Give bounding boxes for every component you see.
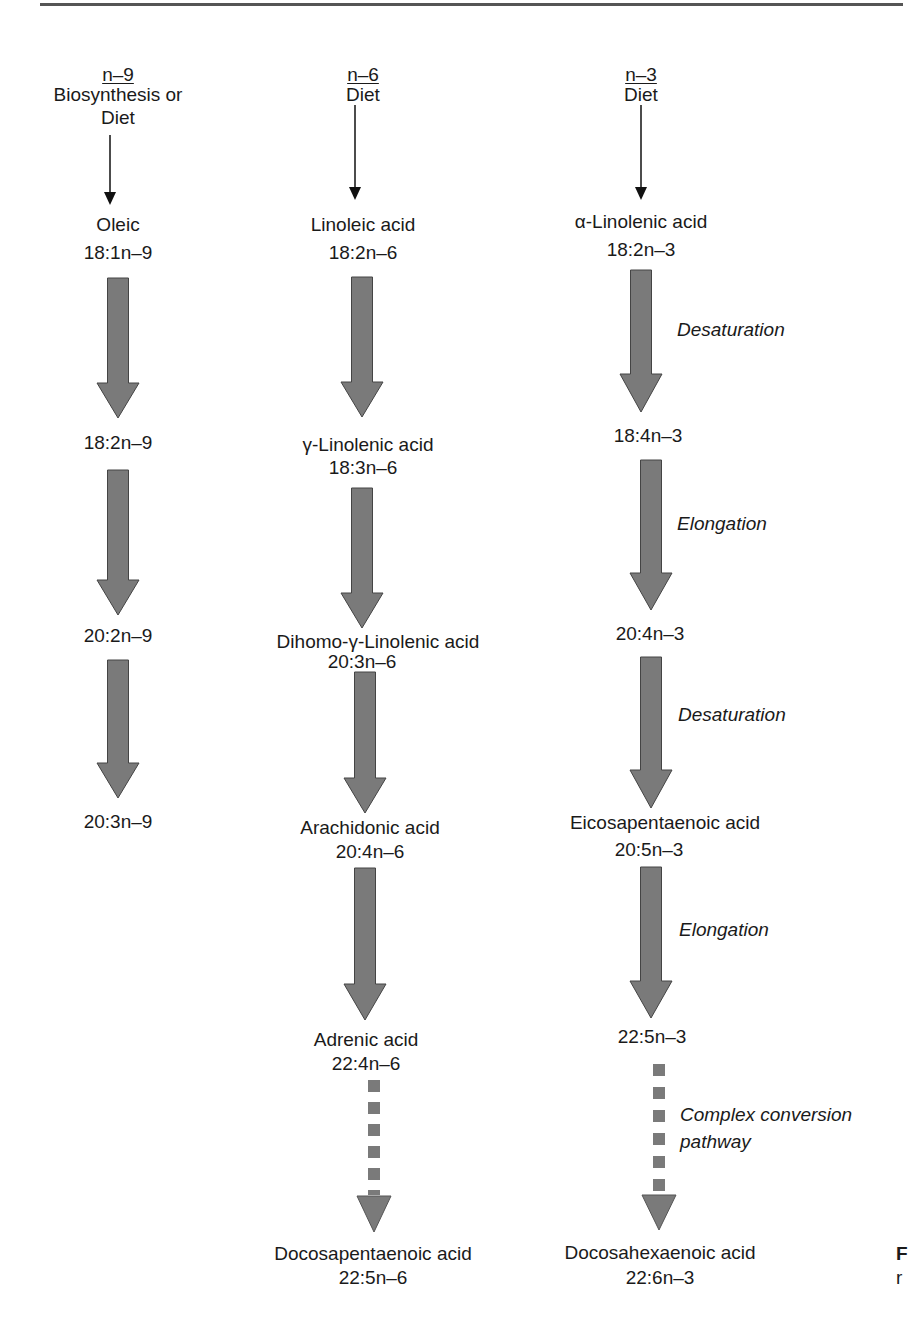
source-label: Diet — [346, 84, 380, 106]
caption-fragment: F — [896, 1243, 908, 1265]
block-arrow-icon — [341, 277, 383, 417]
fatty-acid-formula: 18:4n–3 — [614, 425, 683, 447]
column-header-n6: n–6 — [347, 64, 379, 86]
block-arrow-icon — [344, 868, 386, 1020]
block-arrow-icon — [344, 672, 386, 813]
fatty-acid-name: Docosahexaenoic acid — [564, 1242, 755, 1264]
step-label-elongation: Elongation — [679, 919, 769, 941]
thin-arrow-icon — [104, 135, 116, 205]
step-label-desaturation: Desaturation — [677, 319, 785, 341]
fatty-acid-name: Dihomo-γ-Linolenic acid — [277, 631, 480, 653]
source-label: Diet — [101, 107, 135, 129]
step-label-desaturation: Desaturation — [678, 704, 786, 726]
fatty-acid-formula: 18:2n–3 — [607, 239, 676, 261]
dashed-arrow-icon — [642, 1064, 676, 1230]
fatty-acid-name: Linoleic acid — [311, 214, 416, 236]
thin-arrow-icon — [349, 105, 361, 200]
fatty-acid-formula: 22:5n–3 — [618, 1026, 687, 1048]
fatty-acid-name: Docosapentaenoic acid — [274, 1243, 472, 1265]
fatty-acid-formula: 20:4n–3 — [616, 623, 685, 645]
fatty-acid-formula: 22:5n–6 — [339, 1267, 408, 1289]
block-arrow-icon — [630, 867, 672, 1018]
source-label: Biosynthesis or — [54, 84, 183, 106]
fatty-acid-formula: 22:6n–3 — [626, 1267, 695, 1289]
fatty-acid-name: γ-Linolenic acid — [303, 434, 434, 456]
block-arrow-icon — [97, 278, 139, 418]
fatty-acid-name: Adrenic acid — [314, 1029, 419, 1051]
fatty-acid-formula: 18:1n–9 — [84, 242, 153, 264]
block-arrow-icon — [620, 270, 662, 412]
block-arrow-icon — [97, 470, 139, 615]
source-label: Diet — [624, 84, 658, 106]
fatty-acid-formula: 18:2n–6 — [329, 242, 398, 264]
step-label-complex-conversion: Complex conversion — [680, 1104, 852, 1126]
fatty-acid-formula: 22:4n–6 — [332, 1053, 401, 1075]
thin-arrow-icon — [635, 105, 647, 200]
fatty-acid-formula: 20:3n–9 — [84, 811, 153, 833]
column-header-n9: n–9 — [102, 64, 134, 86]
block-arrow-icon — [97, 660, 139, 798]
block-arrow-icon — [341, 488, 383, 628]
block-arrow-icon — [630, 657, 672, 808]
fatty-acid-name: α-Linolenic acid — [575, 211, 707, 233]
fatty-acid-formula: 20:4n–6 — [336, 841, 405, 863]
step-label-pathway: pathway — [680, 1131, 751, 1153]
dashed-arrow-icon — [357, 1080, 391, 1232]
fatty-acid-formula: 20:3n–6 — [328, 651, 397, 673]
fatty-acid-name: Eicosapentaenoic acid — [570, 812, 760, 834]
step-label-elongation: Elongation — [677, 513, 767, 535]
column-header-n3: n–3 — [625, 64, 657, 86]
block-arrow-icon — [630, 460, 672, 610]
caption-fragment: r — [896, 1267, 902, 1289]
fatty-acid-formula: 20:5n–3 — [615, 839, 684, 861]
fatty-acid-formula: 18:3n–6 — [329, 457, 398, 479]
fatty-acid-formula: 18:2n–9 — [84, 432, 153, 454]
fatty-acid-name: Arachidonic acid — [300, 817, 439, 839]
fatty-acid-name: Oleic — [96, 214, 139, 236]
fatty-acid-formula: 20:2n–9 — [84, 625, 153, 647]
